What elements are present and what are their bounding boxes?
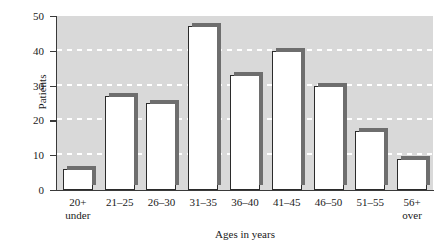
bar: [146, 103, 176, 190]
bar-slot: [349, 16, 391, 190]
x-tick-label-line1: 20+: [57, 196, 99, 209]
y-tick-label: 0: [0, 185, 44, 196]
x-tick-label-line1: 41–45: [266, 196, 308, 209]
x-tick-labels: 20+ under 21–25 26–30 31–35 36–40 41–45 …: [57, 196, 433, 222]
x-tick-label-line1: 31–35: [182, 196, 224, 209]
x-tick-label-line1: 51–55: [349, 196, 391, 209]
bar-slot: [308, 16, 350, 190]
bar-series: [57, 16, 433, 190]
x-axis-title: Ages in years: [57, 228, 433, 240]
bar: [314, 86, 344, 190]
x-tick-label: 41–45: [266, 196, 308, 222]
plot-area: [57, 16, 433, 190]
y-tick-50: [50, 16, 56, 17]
x-tick-label: 20+ under: [57, 196, 99, 222]
x-tick-label: 56+ over: [391, 196, 433, 222]
bar: [355, 131, 385, 190]
x-tick-label-line1: 46–50: [308, 196, 350, 209]
y-tick-20: [50, 120, 56, 121]
x-tick-label-line2: under: [57, 209, 99, 222]
bar-slot: [99, 16, 141, 190]
y-tick-label: 50: [0, 11, 44, 22]
bar-slot: [57, 16, 99, 190]
x-tick-label-line1: 36–40: [224, 196, 266, 209]
bar-slot: [182, 16, 224, 190]
bar-slot: [391, 16, 433, 190]
bar: [272, 51, 302, 190]
y-tick-0: [50, 190, 56, 191]
bar-slot: [224, 16, 266, 190]
bar: [188, 26, 218, 190]
bar: [63, 169, 93, 190]
bar: [230, 75, 260, 190]
x-tick-label-line1: 26–30: [141, 196, 183, 209]
bar: [105, 96, 135, 190]
x-axis-line: [56, 190, 434, 191]
y-tick-40: [50, 51, 56, 52]
x-tick-label: 51–55: [349, 196, 391, 222]
x-tick-label: 31–35: [182, 196, 224, 222]
x-tick-label: 21–25: [99, 196, 141, 222]
x-tick-label-line1: 21–25: [99, 196, 141, 209]
bar-slot: [141, 16, 183, 190]
bar-chart: 50 40 30 20 10 0 Patients 20+ under 21–2…: [0, 0, 436, 246]
x-tick-label: 36–40: [224, 196, 266, 222]
x-tick-label: 46–50: [308, 196, 350, 222]
bar-slot: [266, 16, 308, 190]
y-tick-10: [50, 155, 56, 156]
x-tick-label: 26–30: [141, 196, 183, 222]
y-tick-30: [50, 86, 56, 87]
x-tick-label-line1: 56+: [391, 196, 433, 209]
y-axis-title: Patients: [36, 32, 48, 152]
bar: [397, 159, 427, 190]
y-axis-line: [56, 16, 57, 191]
x-tick-label-line2: over: [391, 209, 433, 222]
